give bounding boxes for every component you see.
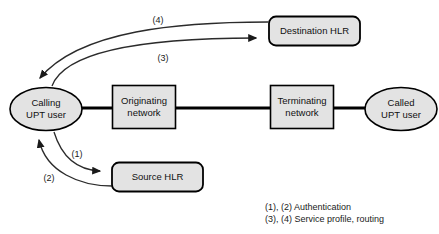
arrow-3-calling-user-to-destination-hlr [52, 38, 256, 86]
calling-upt-user-label-line1: Calling [31, 97, 60, 108]
source-hlr-label: Source HLR [132, 171, 184, 182]
terminating-network-label-line1: Terminating [277, 95, 326, 106]
arrow-4-destination-hlr-to-calling-user [40, 22, 268, 78]
arrow-label-3: (3) [158, 53, 169, 63]
legend-item-authentication: (1), (2) Authentication [265, 202, 351, 212]
destination-hlr-label: Destination HLR [280, 25, 349, 36]
diagram-container: Calling UPT user Originating network Ter… [0, 0, 439, 234]
node-destination-hlr[interactable]: Destination HLR [269, 17, 360, 46]
legend-item-service-profile: (3), (4) Service profile, routing [265, 214, 384, 224]
terminating-network-label-line2: network [285, 107, 319, 118]
node-originating-network[interactable]: Originating network [113, 86, 176, 129]
diagram-canvas: Calling UPT user Originating network Ter… [0, 0, 439, 234]
node-calling-upt-user[interactable]: Calling UPT user [10, 88, 82, 131]
node-called-upt-user[interactable]: Called UPT user [365, 88, 437, 131]
node-terminating-network[interactable]: Terminating network [271, 86, 334, 129]
called-upt-user-label-line1: Called [388, 97, 415, 108]
calling-upt-user-label-line2: UPT user [26, 109, 66, 120]
called-upt-user-label-line2: UPT user [381, 109, 421, 120]
originating-network-label-line1: Originating [121, 95, 167, 106]
arrow-label-2: (2) [44, 173, 55, 183]
originating-network-label-line2: network [127, 107, 161, 118]
arrow-label-4: (4) [153, 15, 164, 25]
legend: (1), (2) Authentication (3), (4) Service… [265, 202, 384, 224]
node-source-hlr[interactable]: Source HLR [112, 163, 203, 192]
arrow-label-1: (1) [72, 149, 83, 159]
